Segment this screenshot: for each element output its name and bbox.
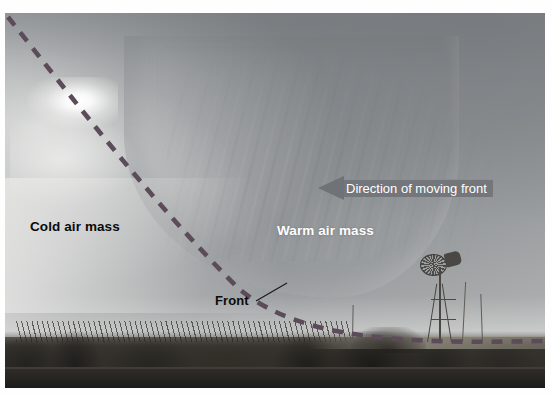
left-arrow-icon [318,176,344,200]
figure-canvas: Cold air mass Warm air mass Front Direct… [0,0,552,397]
cold-air-mass-label: Cold air mass [30,219,120,234]
direction-arrow-body: Direction of moving front [344,179,493,197]
leader-line-icon [256,283,287,301]
warm-air-mass-label: Warm air mass [277,223,374,238]
front-label: Front [215,293,249,308]
direction-arrow-label: Direction of moving front [346,180,487,197]
direction-arrow-banner: Direction of moving front [318,176,493,200]
